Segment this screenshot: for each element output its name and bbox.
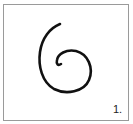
figure-label: 1. <box>113 104 122 115</box>
